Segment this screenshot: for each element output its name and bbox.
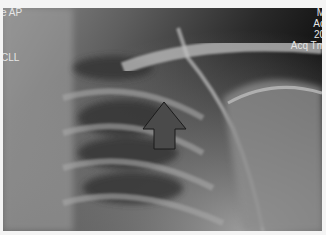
overlay-line: Acq Tm [291, 40, 322, 51]
overlay-line: M [291, 8, 322, 18]
overlay-top-left: e AP [3, 8, 22, 18]
overlay-top-right: M Ac 20 Acq Tm [291, 8, 322, 51]
overlay-label: CLL [3, 52, 19, 63]
overlay-line: 20 [291, 29, 322, 40]
overlay-mid-left: CLL [3, 52, 19, 63]
xray-graphic [3, 8, 322, 231]
overlay-line: Ac [291, 18, 322, 29]
overlay-label: e AP [3, 8, 22, 18]
xray-image: e AP CLL M Ac 20 Acq Tm [3, 8, 322, 231]
